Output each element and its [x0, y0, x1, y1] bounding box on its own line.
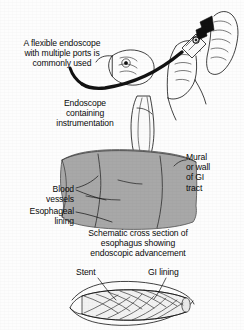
label-endoscope: Endoscope containing instrumentation [34, 98, 136, 129]
gi-wall-tissue-block [61, 150, 197, 230]
label-esophageal-lining: Esophageal lining [4, 206, 74, 226]
label-intro: A flexible endoscope with multiple ports… [6, 38, 118, 69]
label-stent: Stent [76, 267, 120, 277]
endoscopy-illustration: .ln { fill: none; stroke: #111; stroke-w… [0, 0, 244, 330]
stent-group [70, 278, 194, 325]
endoscope-control-head [182, 16, 214, 58]
stent-mesh-cylinder [70, 290, 190, 321]
figure-caption: Schematic cross section of esophagus sho… [64, 228, 212, 259]
label-blood-vessels: Blood vessels [14, 184, 74, 204]
label-gi-lining: GI lining [148, 267, 204, 277]
label-mural-wall: Mural or wall of GI tract [186, 152, 242, 193]
